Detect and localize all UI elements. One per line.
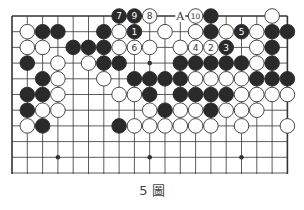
black-stone-icon	[35, 119, 50, 134]
black-stone-icon	[219, 87, 234, 102]
black-stone-icon	[219, 56, 234, 71]
black-stone-icon	[204, 9, 219, 24]
black-stone-icon	[204, 56, 219, 71]
white-stone-icon: 6	[127, 40, 142, 55]
black-stone-icon	[20, 56, 35, 71]
black-stone-icon	[204, 24, 219, 39]
white-stone-icon	[249, 103, 264, 118]
white-stone-icon	[234, 72, 249, 87]
black-stone-icon	[142, 72, 157, 87]
white-stone-icon	[158, 24, 173, 39]
white-stone-icon: 2	[204, 40, 219, 55]
white-stone-icon	[51, 56, 66, 71]
move-number-label: 10	[191, 12, 201, 21]
move-number-label: 4	[193, 43, 199, 53]
black-stone-icon	[97, 56, 112, 71]
white-stone-icon	[127, 119, 142, 134]
hoshi-point-icon	[56, 155, 61, 160]
white-stone-icon	[188, 24, 203, 39]
black-stone-icon	[51, 24, 66, 39]
white-stone-icon	[249, 40, 264, 55]
white-stone-icon	[234, 103, 249, 118]
white-stone-icon	[112, 40, 127, 55]
black-stone-icon	[265, 40, 280, 55]
white-stone-icon	[249, 56, 264, 71]
black-stone-icon: 3	[219, 40, 234, 55]
black-stone-icon	[35, 24, 50, 39]
white-stone-icon	[265, 87, 280, 102]
white-stone-icon: 8	[142, 9, 157, 24]
white-stone-icon	[173, 119, 188, 134]
white-stone-icon	[204, 119, 219, 134]
black-stone-icon	[280, 24, 295, 39]
white-stone-icon	[20, 40, 35, 55]
white-stone-icon	[142, 119, 157, 134]
white-stone-icon	[158, 119, 173, 134]
black-stone-icon	[173, 72, 188, 87]
black-stone-icon: 7	[112, 9, 127, 24]
move-number-label: 8	[147, 11, 153, 21]
white-stone-icon	[188, 119, 203, 134]
black-stone-icon	[234, 56, 249, 71]
hoshi-point-icon	[147, 155, 152, 160]
white-stone-icon	[35, 40, 50, 55]
black-stone-icon: 5	[234, 24, 249, 39]
hoshi-point-icon	[147, 61, 152, 66]
white-stone-icon	[188, 103, 203, 118]
black-stone-icon	[265, 56, 280, 71]
black-stone-icon	[35, 72, 50, 87]
black-stone-icon	[127, 72, 142, 87]
black-stone-icon	[97, 24, 112, 39]
white-stone-icon	[173, 40, 188, 55]
diagram-caption: 5 圖	[0, 180, 304, 199]
white-stone-icon	[127, 87, 142, 102]
black-stone-icon	[158, 72, 173, 87]
white-stone-icon	[188, 72, 203, 87]
white-stone-icon	[219, 24, 234, 39]
black-stone-icon	[81, 40, 96, 55]
black-stone-icon	[66, 40, 81, 55]
move-number-label: 7	[116, 11, 122, 21]
move-number-label: 2	[208, 43, 214, 53]
hoshi-point-icon	[239, 155, 244, 160]
white-stone-icon	[51, 87, 66, 102]
black-stone-icon	[249, 72, 264, 87]
white-stone-icon	[234, 119, 249, 134]
black-stone-icon: 9	[127, 9, 142, 24]
white-stone-icon: 10	[188, 9, 203, 24]
white-stone-icon	[112, 87, 127, 102]
point-marker-label: A	[175, 10, 185, 23]
white-stone-icon	[249, 24, 264, 39]
move-number-label: 9	[132, 11, 138, 21]
white-stone-icon	[142, 40, 157, 55]
board-markers: A	[175, 10, 185, 23]
white-stone-icon	[112, 24, 127, 39]
white-stone-icon	[265, 9, 280, 24]
black-stone-icon	[173, 87, 188, 102]
black-stone-icon	[97, 40, 112, 55]
black-stone-icon	[142, 87, 157, 102]
black-stone-icon	[204, 103, 219, 118]
stones: 79810156423	[20, 9, 295, 134]
move-number-label: 3	[223, 43, 229, 53]
black-stone-icon	[173, 56, 188, 71]
white-stone-icon	[219, 72, 234, 87]
white-stone-icon	[234, 87, 249, 102]
white-stone-icon	[219, 103, 234, 118]
white-stone-icon	[204, 72, 219, 87]
black-stone-icon	[188, 56, 203, 71]
white-stone-icon: 4	[188, 40, 203, 55]
black-stone-icon	[20, 103, 35, 118]
black-stone-icon	[20, 87, 35, 102]
move-number-label: 1	[132, 27, 138, 37]
white-stone-icon	[81, 56, 96, 71]
white-stone-icon	[173, 103, 188, 118]
white-stone-icon	[20, 24, 35, 39]
black-stone-icon	[188, 87, 203, 102]
move-number-label: 5	[239, 27, 245, 37]
black-stone-icon	[35, 87, 50, 102]
black-stone-icon	[280, 72, 295, 87]
white-stone-icon	[280, 87, 295, 102]
go-board: A 79810156423	[0, 0, 304, 180]
black-stone-icon: 1	[127, 24, 142, 39]
